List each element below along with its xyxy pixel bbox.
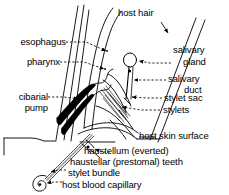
cibarial-pump-mass: [57, 84, 96, 135]
label-cibarial-pump-line2: pump: [2, 103, 48, 114]
label-host-skin-surface: host skin surface: [139, 131, 209, 142]
label-haustellar-prestomal-teeth: haustellar (prestomal) teeth: [70, 157, 183, 168]
figure-canvas: host hair esophagus pharynx cibarial pum…: [0, 0, 229, 195]
leader-target-dots: [104, 50, 108, 70]
esophagus-tube: [84, 8, 122, 129]
leader-salivary-gland: [139, 61, 171, 63]
label-salivary-gland-line2: gland: [183, 57, 206, 68]
leader-stylet-sac: [132, 97, 162, 98]
proboscis-body: [78, 106, 138, 139]
leader-stylets: [122, 107, 160, 110]
label-host-blood-capillary: host blood capillary: [62, 180, 141, 191]
label-stylet-sac: stylet sac: [164, 93, 203, 104]
label-pharynx: pharynx: [2, 57, 60, 68]
label-cibarial-pump-line1: cibarial: [2, 92, 48, 103]
salivary-gland-node: [124, 53, 137, 67]
label-haustellum-everted: haustellum (everted): [84, 146, 169, 157]
label-salivary-gland-line1: salivary: [173, 45, 204, 56]
label-stylet-bundle: stylet bundle: [68, 168, 120, 179]
leader-blood-capillary: [47, 182, 62, 183]
label-salivary-duct-line1: salivary: [168, 74, 199, 85]
leader-host-hair: [161, 22, 168, 33]
label-stylets: stylets: [163, 105, 189, 116]
label-host-hair: host hair: [118, 8, 154, 19]
salivary-duct-line: [126, 67, 133, 99]
blood-capillary-coil: [33, 175, 46, 191]
label-esophagus: esophagus: [2, 37, 66, 48]
